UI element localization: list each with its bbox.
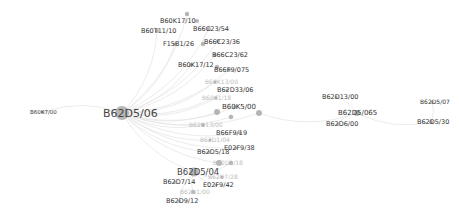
- node-label: B62D5/06: [103, 107, 158, 120]
- graph-node[interactable]: [256, 110, 262, 116]
- network-graph[interactable]: B62D5/06B62D5/04B60K17/10B60T11/10B66C23…: [0, 0, 459, 215]
- graph-node[interactable]: [185, 12, 189, 16]
- node-label: B66C23/36: [204, 38, 240, 46]
- node-label: B60K17/10: [160, 17, 196, 25]
- node-label: B62D5/30: [417, 118, 449, 126]
- node-label: B60K17/12: [178, 61, 214, 69]
- node-label: B60K1/18: [202, 94, 231, 101]
- node-label: B66F9/075: [214, 66, 249, 74]
- node-label: B66C23/54: [193, 25, 229, 33]
- node-label: B60K5/00: [222, 103, 256, 111]
- node-label: B62D7/14: [163, 178, 195, 186]
- node-label: B62D5/065: [338, 109, 377, 117]
- node-label: B62D1/00: [180, 188, 210, 195]
- node-label: B62D1/04: [200, 136, 230, 143]
- graph-node[interactable]: [229, 115, 234, 120]
- node-label: B62D13/00: [322, 93, 358, 101]
- node-label: B62D33/06: [217, 86, 253, 94]
- node-label: F15B1/26: [163, 40, 194, 48]
- node-label: B62D9/12: [166, 197, 198, 205]
- node-label: B62D13/00: [189, 121, 223, 128]
- node-label: B66C23/62: [212, 51, 248, 59]
- node-label: B62D1/18: [213, 159, 243, 166]
- node-label: B60K7/00: [30, 109, 57, 115]
- node-label: B62D5/07: [420, 98, 450, 105]
- graph-node[interactable]: [214, 109, 220, 115]
- node-label: B62D5/18: [197, 148, 229, 156]
- node-label: B62D6/00: [326, 120, 358, 128]
- node-label: B60K13/00: [205, 78, 238, 85]
- node-label: B62D7/28: [208, 173, 238, 180]
- node-label: B60T11/10: [141, 27, 176, 35]
- label-layer: B62D5/06B62D5/04B60K17/10B60T11/10B66C23…: [30, 17, 450, 205]
